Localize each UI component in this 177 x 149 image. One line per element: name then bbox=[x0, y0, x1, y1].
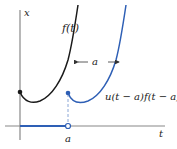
vertical-axis-label: x bbox=[24, 7, 30, 18]
start-dot-shifted bbox=[66, 91, 71, 96]
curve-shifted bbox=[68, 5, 126, 102]
start-dot-f bbox=[18, 90, 23, 95]
horizontal-axis-label: t bbox=[159, 128, 164, 139]
shift-label: a bbox=[92, 56, 98, 67]
shift-diagram: a x t a f(t) u(t − a)f(t − a) bbox=[0, 0, 177, 149]
tick-label-a: a bbox=[65, 133, 71, 144]
curve-shifted-label: u(t − a)f(t − a) bbox=[105, 91, 177, 102]
open-circle-at-a bbox=[66, 124, 71, 129]
curve-f-label: f(t) bbox=[61, 22, 79, 35]
curve-f-t bbox=[20, 5, 78, 102]
